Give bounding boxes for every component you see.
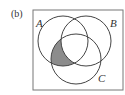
set-c-label: C bbox=[98, 72, 106, 84]
set-a-label: A bbox=[35, 17, 43, 29]
venn-diagram: (b) A B C bbox=[0, 0, 125, 95]
panel-label: (b) bbox=[11, 8, 23, 20]
set-b-label: B bbox=[110, 17, 117, 29]
